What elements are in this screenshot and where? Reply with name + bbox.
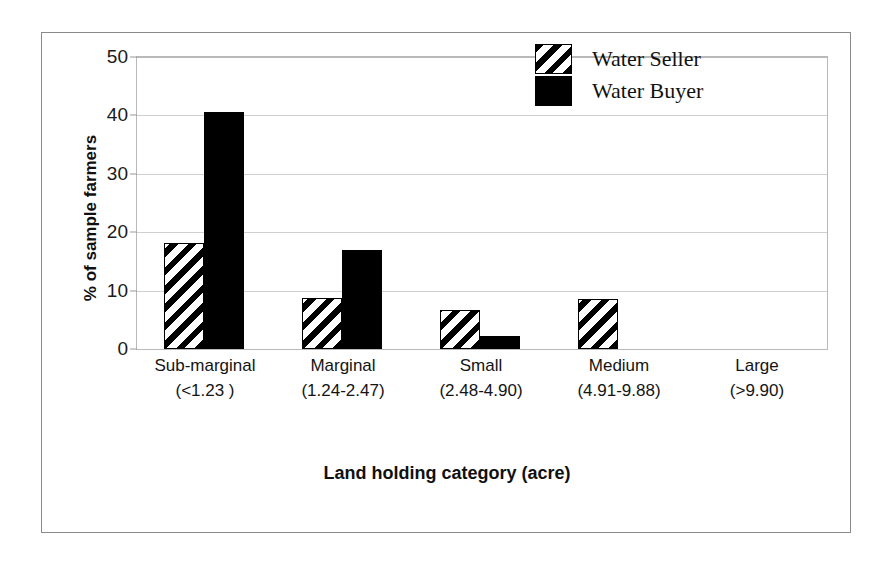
category-range: (<1.23 ): [136, 378, 274, 403]
bar-group: [137, 57, 275, 349]
bar-group: [689, 57, 827, 349]
x-axis-category-label: Medium(4.91-9.88): [550, 353, 688, 403]
y-tick-mark: [130, 57, 137, 58]
legend-label-water-buyer: Water Buyer: [592, 78, 703, 104]
y-tick-label: 10: [107, 280, 128, 302]
figure-frame: % of sample farmers 01020304050 Water Se…: [41, 32, 851, 533]
legend-label-water-seller: Water Seller: [592, 46, 701, 72]
category-name: Small: [412, 353, 550, 378]
y-tick-mark: [130, 173, 137, 174]
bar-water-buyer: [480, 336, 520, 349]
legend-item-water-seller: Water Seller: [535, 43, 703, 75]
category-range: (2.48-4.90): [412, 378, 550, 403]
category-name: Marginal: [274, 353, 412, 378]
x-axis-category-label: Small(2.48-4.90): [412, 353, 550, 403]
bar-water-seller: [578, 299, 618, 349]
bar-water-seller: [164, 243, 204, 349]
bar-water-buyer: [342, 250, 382, 349]
bars-layer: [137, 57, 827, 349]
bar-water-buyer: [204, 112, 244, 349]
category-range: (4.91-9.88): [550, 378, 688, 403]
x-axis-category-label: Large(>9.90): [688, 353, 826, 403]
y-tick-mark: [130, 349, 137, 350]
solid-black-swatch-icon: [535, 76, 572, 106]
bar-water-seller: [440, 310, 480, 349]
category-name: Medium: [550, 353, 688, 378]
legend-item-water-buyer: Water Buyer: [535, 75, 703, 107]
bar-group: [275, 57, 413, 349]
hatched-swatch-icon: [535, 44, 572, 74]
x-axis-title: Land holding category (acre): [42, 463, 852, 484]
y-tick-label: 30: [107, 163, 128, 185]
gridline: [137, 349, 827, 350]
y-tick-label: 0: [117, 338, 128, 360]
y-tick-mark: [130, 290, 137, 291]
category-name: Sub-marginal: [136, 353, 274, 378]
x-axis-category-label: Marginal(1.24-2.47): [274, 353, 412, 403]
x-axis-category-label: Sub-marginal(<1.23 ): [136, 353, 274, 403]
chart-legend: Water Seller Water Buyer: [535, 43, 703, 107]
y-tick-mark: [130, 232, 137, 233]
y-tick-label: 20: [107, 221, 128, 243]
category-range: (1.24-2.47): [274, 378, 412, 403]
x-axis-category-labels: Sub-marginal(<1.23 )Marginal(1.24-2.47)S…: [136, 353, 826, 423]
y-tick-label: 40: [107, 104, 128, 126]
y-axis-title: % of sample farmers: [81, 103, 101, 333]
y-tick-label: 50: [107, 46, 128, 68]
y-tick-mark: [130, 115, 137, 116]
category-range: (>9.90): [688, 378, 826, 403]
plot-area: 01020304050: [136, 56, 828, 350]
category-name: Large: [688, 353, 826, 378]
bar-group: [413, 57, 551, 349]
bar-water-seller: [302, 298, 342, 349]
